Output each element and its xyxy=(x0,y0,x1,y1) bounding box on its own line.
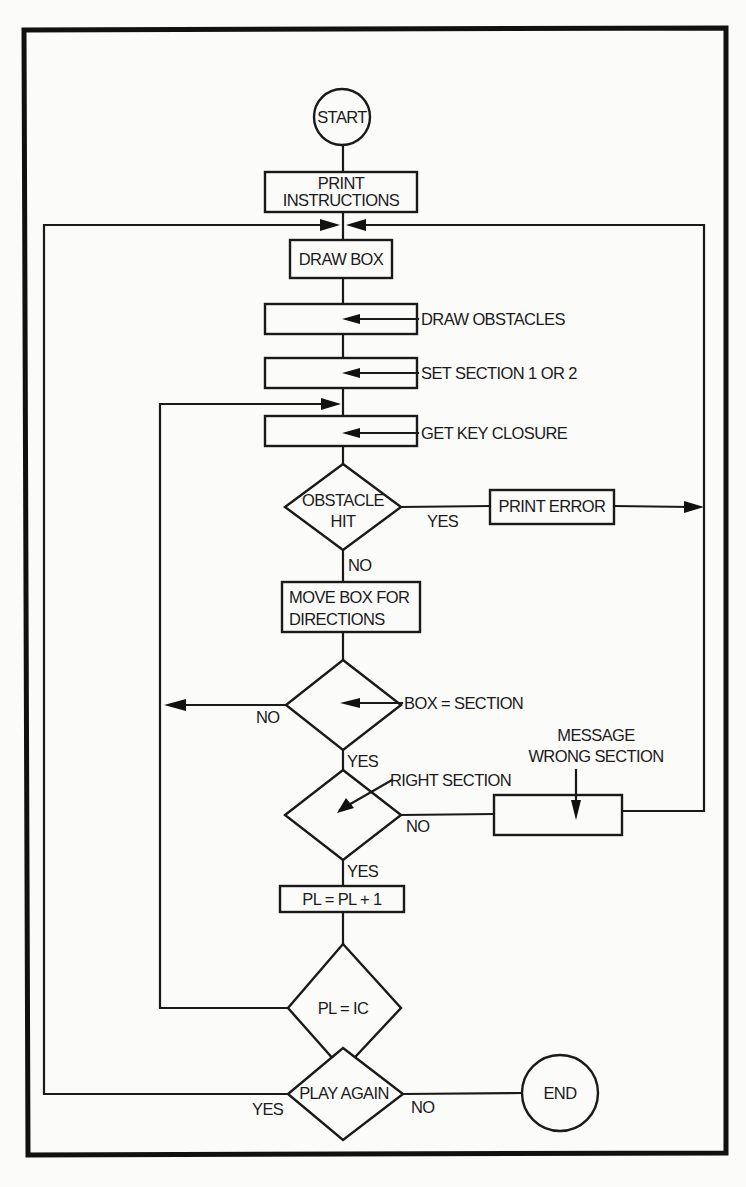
end-label: END xyxy=(543,1084,577,1102)
obstacle-hit-line1: OBSTACLE xyxy=(302,491,385,509)
message-label-line2: WRONG SECTION xyxy=(528,747,663,765)
play-again-no-label: NO xyxy=(411,1098,435,1116)
right-section-no-label: NO xyxy=(406,817,430,835)
box-section-yes-label: YES xyxy=(347,752,379,770)
move-box-line1: MOVE BOX FOR xyxy=(289,588,410,606)
box-equals-section-decision xyxy=(286,660,401,750)
flowchart: START PRINT INSTRUCTIONS DRAW BOX DRAW O… xyxy=(0,0,746,1187)
print-instructions-line2: INSTRUCTIONS xyxy=(283,191,400,209)
print-instructions-line1: PRINT xyxy=(318,174,365,192)
draw-box-label: DRAW BOX xyxy=(299,250,384,268)
connector-rightsection-no xyxy=(401,814,494,815)
right-section-label: RIGHT SECTION xyxy=(390,771,511,789)
arrowhead-left-icon xyxy=(164,699,186,711)
arrowhead-left-icon xyxy=(346,219,366,231)
connector-printerror-return xyxy=(614,506,690,507)
obstacle-hit-line2: HIT xyxy=(331,512,356,530)
arrowhead-right-icon xyxy=(684,501,704,513)
play-again-label: PLAY AGAIN xyxy=(299,1084,389,1102)
connector-playagain-no xyxy=(403,1093,522,1094)
draw-obstacles-label: DRAW OBSTACLES xyxy=(421,310,565,328)
box-section-no-label: NO xyxy=(256,708,280,726)
message-label-line1: MESSAGE xyxy=(557,726,635,744)
connector-obstacle-yes xyxy=(401,506,490,507)
set-section-label: SET SECTION 1 OR 2 xyxy=(421,364,577,382)
obstacle-yes-label: YES xyxy=(427,512,459,530)
pl-increment-label: PL = PL + 1 xyxy=(302,890,382,908)
right-section-yes-label: YES xyxy=(347,862,379,880)
get-key-closure-label: GET KEY CLOSURE xyxy=(421,424,568,442)
print-error-label: PRINT ERROR xyxy=(499,497,606,515)
arrowhead-right-icon xyxy=(321,398,341,410)
start-label: START xyxy=(317,108,367,126)
move-box-line2: DIRECTIONS xyxy=(289,610,385,628)
box-equals-section-label: BOX = SECTION xyxy=(404,694,523,712)
get-key-closure-process xyxy=(265,416,417,446)
pl-equals-ic-label: PL = IC xyxy=(318,999,369,1017)
obstacle-no-label: NO xyxy=(348,556,372,574)
loop-play-again-yes xyxy=(44,225,325,1094)
arrowhead-right-icon xyxy=(320,219,340,231)
play-again-yes-label: YES xyxy=(252,1100,284,1118)
right-section-decision xyxy=(285,770,401,860)
wrong-section-message-process xyxy=(494,795,622,835)
